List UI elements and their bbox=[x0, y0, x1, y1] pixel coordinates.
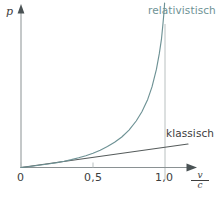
x-axis-label-denominator: c bbox=[191, 181, 209, 190]
momentum-velocity-chart: p 0 0,5 1,0 v c relativistisch klassisch bbox=[0, 0, 216, 204]
y-axis-label: p bbox=[6, 5, 13, 18]
x-tick-label-0-5: 0,5 bbox=[84, 171, 102, 184]
series-curve-relativistisch bbox=[21, 3, 165, 168]
x-axis-label: v c bbox=[191, 171, 209, 191]
series-label-relativistisch: relativistisch bbox=[148, 4, 216, 16]
x-tick-label-0: 0 bbox=[17, 171, 24, 184]
y-axis-arrow-icon bbox=[18, 4, 25, 14]
x-tick-label-1-0: 1,0 bbox=[155, 171, 173, 184]
plot-area bbox=[0, 0, 216, 204]
series-label-klassisch: klassisch bbox=[166, 127, 214, 139]
